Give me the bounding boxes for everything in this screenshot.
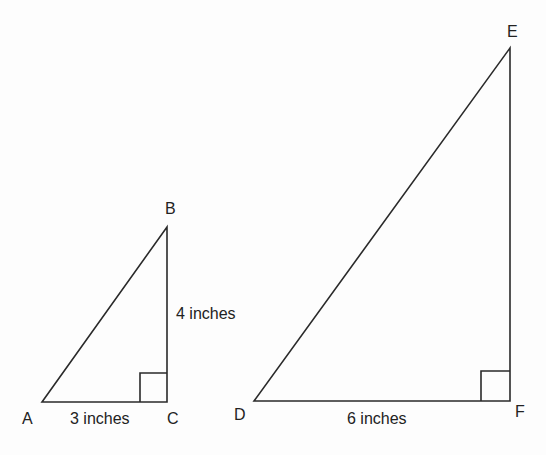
triangles-drawing	[0, 0, 546, 455]
triangle-def	[254, 48, 510, 401]
right-angle-marker-f	[481, 371, 510, 401]
vertex-label-e: E	[507, 24, 518, 40]
triangle-abc	[42, 227, 167, 402]
right-angle-marker-c	[140, 373, 167, 402]
side-label-bc: 4 inches	[176, 306, 236, 322]
vertex-label-d: D	[234, 407, 246, 423]
side-label-df: 6 inches	[347, 411, 407, 427]
similar-triangles-diagram: A B C 3 inches 4 inches D E F 6 inches	[0, 0, 546, 455]
vertex-label-b: B	[165, 201, 176, 217]
side-label-ac: 3 inches	[70, 411, 130, 427]
vertex-label-f: F	[515, 404, 525, 420]
vertex-label-c: C	[167, 411, 179, 427]
vertex-label-a: A	[22, 411, 33, 427]
